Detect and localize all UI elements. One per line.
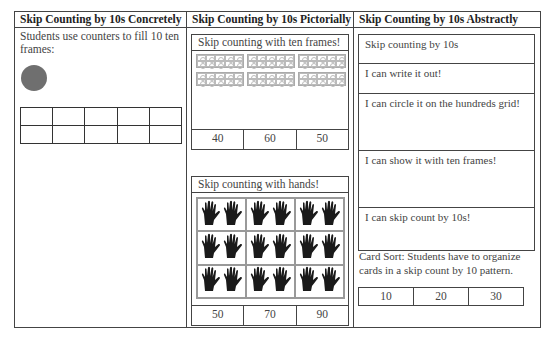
skip-counting-table: Skip Counting by 10s Concretely Students… xyxy=(14,11,541,328)
hand-icon xyxy=(250,233,270,263)
counter-circle-icon xyxy=(21,65,47,91)
answer-cell: 50 xyxy=(192,306,244,325)
hand-icon xyxy=(272,200,292,230)
hand-icon xyxy=(250,200,270,230)
mini-ten-frame-icon xyxy=(298,54,346,68)
cut-off-caption xyxy=(14,0,18,2)
answer-cell: 90 xyxy=(297,306,348,325)
hand-icon xyxy=(201,200,221,230)
hands-grid xyxy=(196,197,345,299)
hands-cell xyxy=(197,265,246,298)
hand-icon xyxy=(201,233,221,263)
hand-icon xyxy=(250,266,270,296)
hands-cell xyxy=(246,265,295,298)
abstract-steps: Skip counting by 10s I can write it out!… xyxy=(358,34,535,251)
step-skip-count: I can skip count by 10s! xyxy=(358,208,535,251)
answer-row: 50 70 90 xyxy=(192,305,348,325)
hands-cell xyxy=(295,265,344,298)
card: 10 xyxy=(359,288,414,305)
column-header: Skip Counting by 10s Abstractly xyxy=(354,12,540,28)
hands-cell xyxy=(295,231,344,264)
mini-ten-frame-icon xyxy=(247,54,295,68)
description: Students use counters to fill 10 ten fra… xyxy=(15,28,186,58)
hand-icon xyxy=(272,266,292,296)
step-ten-frames: I can show it with ten frames! xyxy=(358,151,535,208)
hands-box: Skip counting with hands! 50 70 90 xyxy=(191,176,349,326)
answer-cell: 70 xyxy=(244,306,296,325)
mini-ten-frame-icon xyxy=(298,72,346,86)
ten-frames-box: Skip counting with ten frames! 40 60 50 xyxy=(191,34,349,150)
answer-cell: 40 xyxy=(192,130,244,149)
answer-cell: 50 xyxy=(297,130,348,149)
box-title: Skip counting with hands! xyxy=(192,177,348,193)
hand-icon xyxy=(299,266,319,296)
column-abstractly: Skip Counting by 10s Abstractly Skip cou… xyxy=(354,12,540,327)
hand-icon xyxy=(321,200,341,230)
step-title: Skip counting by 10s xyxy=(358,34,535,64)
hand-icon xyxy=(299,200,319,230)
card-sort-description: Card Sort: Students have to organize car… xyxy=(359,249,537,277)
hand-icon xyxy=(321,266,341,296)
column-pictorially: Skip Counting by 10s Pictorially Skip co… xyxy=(187,12,354,327)
hand-icon xyxy=(223,266,243,296)
answer-row: 40 60 50 xyxy=(192,129,348,149)
hands-cell xyxy=(197,198,246,231)
card: 30 xyxy=(469,288,523,305)
hand-icon xyxy=(223,233,243,263)
column-header: Skip Counting by 10s Pictorially xyxy=(187,12,353,28)
hands-cell xyxy=(246,198,295,231)
hand-icon xyxy=(272,233,292,263)
mini-ten-frame-icon xyxy=(247,72,295,86)
step-circle-grid: I can circle it on the hundreds grid! xyxy=(358,94,535,151)
hand-icon xyxy=(299,233,319,263)
ten-frame xyxy=(20,107,182,144)
hands-cell xyxy=(197,231,246,264)
box-title: Skip counting with ten frames! xyxy=(192,35,348,51)
hand-icon xyxy=(321,233,341,263)
hands-cell xyxy=(246,231,295,264)
card: 20 xyxy=(414,288,469,305)
hands-cell xyxy=(295,198,344,231)
column-concretely: Skip Counting by 10s Concretely Students… xyxy=(15,12,187,327)
step-write: I can write it out! xyxy=(358,64,535,94)
card-row: 10 20 30 xyxy=(358,287,524,306)
mini-ten-frame-icon xyxy=(196,54,244,68)
mini-ten-frame-icon xyxy=(196,72,244,86)
hand-icon xyxy=(201,266,221,296)
column-header: Skip Counting by 10s Concretely xyxy=(15,12,186,28)
answer-cell: 60 xyxy=(244,130,296,149)
hand-icon xyxy=(223,200,243,230)
